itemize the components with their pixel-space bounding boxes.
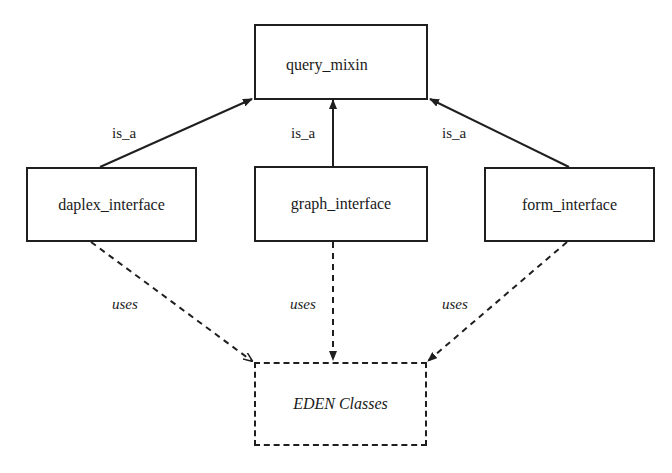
node-daplex-interface: daplex_interface xyxy=(26,167,197,242)
node-graph-interface-label: graph_interface xyxy=(291,195,391,213)
edge-label-is-a-right: is_a xyxy=(442,125,466,141)
uses-edges xyxy=(91,242,567,361)
node-eden-classes: EDEN Classes xyxy=(254,362,427,446)
edge-label-uses-right: uses xyxy=(442,296,468,312)
node-graph-interface: graph_interface xyxy=(254,166,428,242)
node-daplex-interface-label: daplex_interface xyxy=(58,196,165,214)
node-form-interface: form_interface xyxy=(484,167,655,242)
edge-label-uses-left: uses xyxy=(112,296,138,312)
node-eden-classes-label: EDEN Classes xyxy=(293,395,388,413)
edge-label-is-a-left: is_a xyxy=(112,125,136,141)
edge-label-uses-middle: uses xyxy=(290,296,316,312)
edge-label-is-a-middle: is_a xyxy=(291,125,315,141)
node-form-interface-label: form_interface xyxy=(522,196,617,214)
node-query-mixin-label: query_mixin xyxy=(286,56,368,74)
is-a-edges xyxy=(100,99,569,167)
node-query-mixin: query_mixin xyxy=(254,24,428,100)
